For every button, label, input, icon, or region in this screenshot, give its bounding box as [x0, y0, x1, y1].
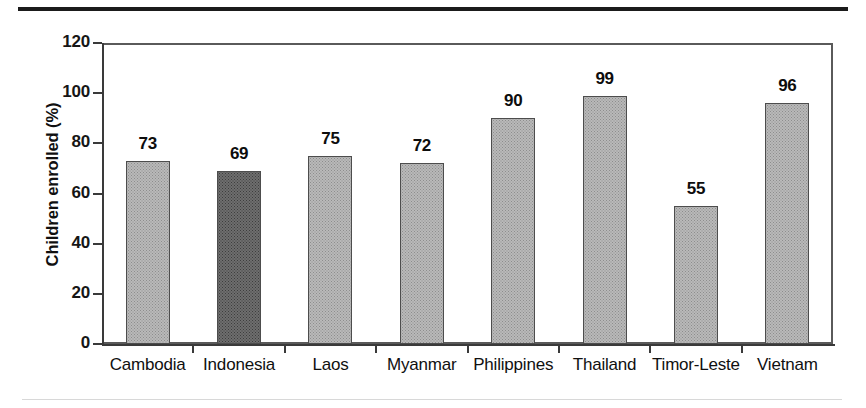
bar-value-label: 73 — [108, 134, 188, 154]
bar-value-label: 99 — [565, 69, 645, 89]
x-axis-tick — [284, 344, 286, 353]
x-axis-tick — [649, 344, 651, 353]
x-axis-tick — [741, 344, 743, 353]
y-axis-tick — [93, 42, 102, 44]
x-axis-tick — [375, 344, 377, 353]
bar-vietnam — [765, 103, 809, 344]
x-axis-tick — [558, 344, 560, 353]
bar-value-label: 55 — [656, 179, 736, 199]
bar-myanmar — [400, 163, 444, 344]
y-axis-tick-label: 80 — [36, 132, 90, 152]
bar-value-label: 96 — [747, 76, 827, 96]
bar-value-label: 72 — [382, 136, 462, 156]
y-axis-tick-labels: 120100806040200 — [26, 0, 90, 408]
category-label-myanmar: Myanmar — [370, 355, 473, 375]
bar-cambodia — [126, 161, 170, 344]
bar-timor-leste — [674, 206, 718, 344]
y-axis-tick-label: 100 — [36, 82, 90, 102]
y-axis-tick — [93, 293, 102, 295]
bar-indonesia — [217, 171, 261, 344]
bar-philippines — [491, 118, 535, 344]
bottom-horizontal-rule — [22, 399, 842, 400]
y-axis-tick-label: 60 — [36, 183, 90, 203]
category-label-thailand: Thailand — [553, 355, 656, 375]
y-axis-tick-label: 120 — [36, 32, 90, 52]
category-label-laos: Laos — [279, 355, 382, 375]
y-axis-tick-label: 20 — [36, 283, 90, 303]
bar-value-label: 69 — [199, 144, 279, 164]
x-axis-tick — [192, 344, 194, 353]
category-label-philippines: Philippines — [462, 355, 565, 375]
category-label-cambodia: Cambodia — [96, 355, 199, 375]
y-axis-line — [102, 43, 104, 346]
bar-chart-figure: Children enrolled (%) 120100806040200 73… — [0, 0, 866, 408]
bar-value-label: 90 — [473, 91, 553, 111]
y-axis-tick — [93, 343, 102, 345]
bar-value-label: 75 — [290, 129, 370, 149]
y-axis-tick-label: 40 — [36, 233, 90, 253]
y-axis-tick — [93, 92, 102, 94]
category-label-vietnam: Vietnam — [736, 355, 839, 375]
y-axis-tick — [93, 193, 102, 195]
x-axis-line — [102, 344, 835, 346]
y-axis-tick — [93, 243, 102, 245]
category-label-indonesia: Indonesia — [187, 355, 290, 375]
y-axis-tick — [93, 142, 102, 144]
y-axis-tick-label: 0 — [36, 333, 90, 353]
bar-thailand — [583, 96, 627, 344]
x-axis-tick — [467, 344, 469, 353]
category-label-timor-leste: Timor-Leste — [644, 355, 747, 375]
bar-laos — [308, 156, 352, 344]
